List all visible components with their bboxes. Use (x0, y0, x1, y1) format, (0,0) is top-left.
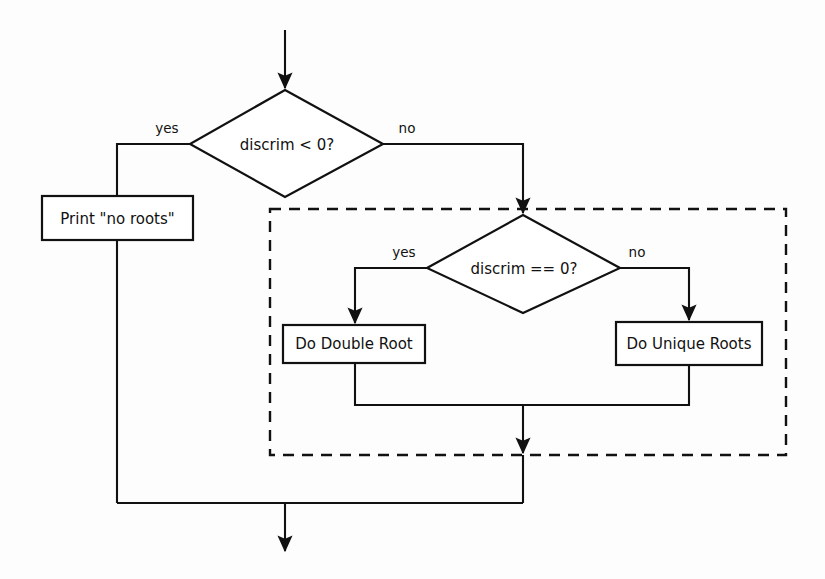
edge-label-discrim-lt-zero-no: no (399, 120, 416, 136)
connector-discrim-lt-zero-yes (117, 144, 190, 196)
process-do-double-root-label: Do Double Root (295, 335, 413, 353)
process-print-no-roots[interactable]: Print "no roots" (42, 196, 193, 240)
connector-discrim-lt-zero-no (383, 144, 523, 213)
edge-label-discrim-eq-zero-yes: yes (392, 244, 415, 260)
flowchart-canvas: discrim < 0? yes no Print "no roots" dis… (0, 0, 825, 579)
decision-discrim-lt-zero[interactable]: discrim < 0? (190, 90, 383, 197)
process-do-double-root[interactable]: Do Double Root (283, 325, 425, 363)
edge-label-discrim-eq-zero-no: no (629, 244, 646, 260)
process-do-unique-roots-label: Do Unique Roots (627, 335, 752, 353)
connector-do-unique-roots-out (523, 365, 689, 405)
decision-discrim-eq-zero-label: discrim == 0? (471, 260, 578, 278)
process-print-no-roots-label: Print "no roots" (60, 210, 174, 228)
connector-discrim-eq-zero-no (620, 268, 689, 320)
flowchart-diagram: discrim < 0? yes no Print "no roots" dis… (0, 0, 825, 579)
decision-discrim-lt-zero-label: discrim < 0? (240, 136, 334, 154)
decision-discrim-eq-zero[interactable]: discrim == 0? (427, 215, 620, 313)
connector-discrim-eq-zero-yes (355, 268, 427, 323)
connector-do-double-root-out (355, 363, 523, 405)
process-do-unique-roots[interactable]: Do Unique Roots (616, 322, 762, 365)
edge-label-discrim-lt-zero-yes: yes (155, 120, 178, 136)
